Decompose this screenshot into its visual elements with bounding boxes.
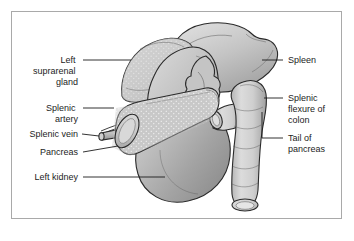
splenic-artery-label: Splenic artery [46, 103, 114, 124]
splenic-flexure-of-colon-label: Splenic flexure of colon [264, 93, 328, 125]
anatomical-figure: Left suprarenal gland Splenic artery Spl… [0, 0, 354, 241]
splenic-vein-text: Splenic vein [29, 129, 78, 139]
spleen-text: Spleen [288, 55, 316, 65]
left-suprarenal-gland-text: Left suprarenal gland [33, 55, 78, 87]
splenic-vein-leader [82, 134, 99, 136]
splenic-artery-text: Splenic artery [46, 103, 79, 124]
colon-shape [231, 81, 266, 212]
pancreas-text: Pancreas [40, 147, 79, 157]
pancreas-leader [83, 146, 118, 152]
tail-of-pancreas-text: Tail of pancreas [288, 133, 326, 154]
left-suprarenal-gland-label: Left suprarenal gland [33, 55, 131, 87]
splenic-flexure-of-colon-text: Splenic flexure of colon [288, 93, 328, 125]
splenic-vein-label: Splenic vein [29, 129, 99, 139]
anatomy-illustration: Left suprarenal gland Splenic artery Spl… [0, 0, 354, 241]
pancreas-label: Pancreas [40, 146, 118, 157]
left-kidney-text: Left kidney [34, 172, 78, 182]
